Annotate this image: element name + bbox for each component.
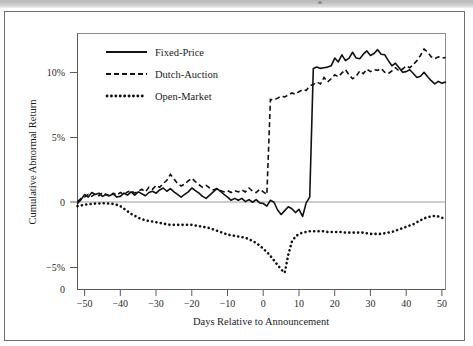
x-tick-label: −50 <box>77 298 93 309</box>
series-group <box>78 49 446 273</box>
x-tick-label: −10 <box>220 298 236 309</box>
chart-figure: 10% 5% 0 −5% 0 <box>0 0 473 346</box>
x-tick-label: 30 <box>365 298 375 309</box>
x-axis-tick-labels: −50 −40 −30 −20 −10 0 10 20 30 40 50 <box>77 298 447 309</box>
y-axis-ticks <box>70 73 78 268</box>
chart-legend: Fixed-Price Dutch-Auction Open-Market <box>106 47 219 102</box>
chart-svg: 10% 5% 0 −5% 0 <box>0 0 473 346</box>
legend-label-open-market: Open-Market <box>155 91 212 102</box>
y-tick-label: 10% <box>47 67 65 78</box>
legend-label-fixed-price: Fixed-Price <box>155 47 204 58</box>
x-tick-label: 50 <box>437 298 447 309</box>
legend-label-dutch-auction: Dutch-Auction <box>155 69 219 80</box>
y-axis-title: Cumulative Abnormal Return <box>27 99 38 225</box>
y-axis-tick-labels: 10% 5% 0 −5% 0 <box>46 67 65 295</box>
y-tick-label: 0 <box>60 197 65 208</box>
y-tick-label: 5% <box>52 132 65 143</box>
x-tick-label: 0 <box>261 298 266 309</box>
series-open-market <box>78 203 446 273</box>
x-axis-ticks <box>85 290 442 297</box>
series-dutch-auction <box>78 49 446 202</box>
x-tick-label: 20 <box>330 298 340 309</box>
x-tick-label: 40 <box>401 298 411 309</box>
y-tick-label: −5% <box>46 262 65 273</box>
x-tick-label: 10 <box>294 298 304 309</box>
x-tick-label: −20 <box>184 298 200 309</box>
x-axis-title: Days Relative to Announcement <box>193 316 329 327</box>
x-tick-label: −40 <box>112 298 128 309</box>
figure-page: 10% 5% 0 −5% 0 <box>0 0 473 346</box>
y-tick-label-origin: 0 <box>60 284 65 295</box>
x-tick-label: −30 <box>148 298 164 309</box>
